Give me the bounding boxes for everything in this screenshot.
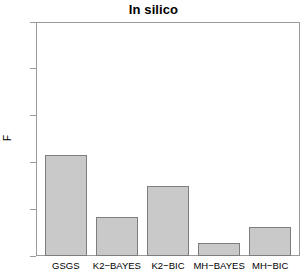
chart-title: In silico xyxy=(0,2,307,18)
bar xyxy=(198,243,241,256)
bar-chart: In silico F 0.00.20.40.60.81.0 GSGSK2−BA… xyxy=(0,0,307,279)
bar xyxy=(147,186,190,256)
x-axis-tick-label: MH−BIC xyxy=(230,259,307,272)
y-axis-tick xyxy=(30,22,36,23)
y-axis-tick xyxy=(30,209,36,210)
bar xyxy=(45,155,88,256)
y-axis-tick xyxy=(30,68,36,69)
bar xyxy=(249,227,292,256)
y-axis-label: F xyxy=(1,133,15,144)
y-axis-tick xyxy=(30,115,36,116)
y-axis-tick xyxy=(30,256,36,257)
bar xyxy=(96,217,139,256)
y-axis-tick xyxy=(30,162,36,163)
y-axis: F 0.00.20.40.60.81.0 xyxy=(0,0,36,279)
